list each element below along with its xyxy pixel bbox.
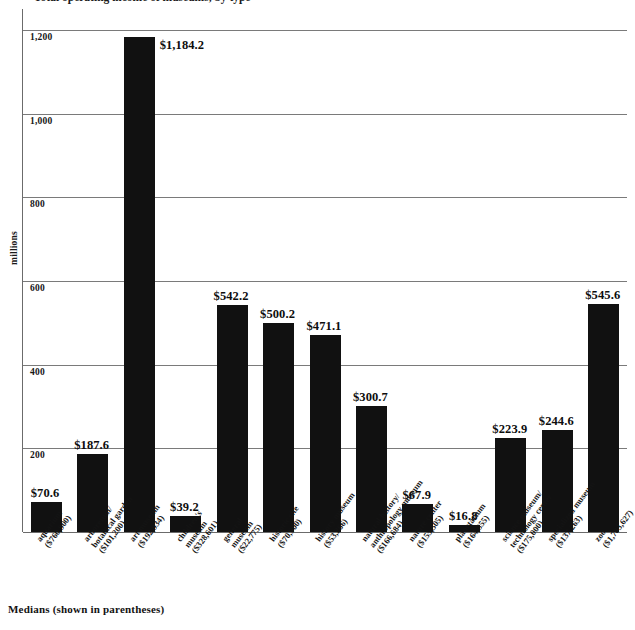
bar[interactable]: [217, 305, 248, 532]
bar-value-label: $300.7: [353, 390, 388, 405]
y-axis-tick-label: 1,200: [30, 32, 52, 42]
bar-value-label: $545.6: [585, 288, 620, 303]
gridline: [23, 281, 627, 282]
bar-value-label: $542.2: [214, 289, 249, 304]
bar[interactable]: [263, 323, 294, 532]
y-axis-label: millions: [9, 218, 19, 278]
bar-value-label: $39.2: [170, 500, 199, 515]
x-axis-category-labels: aquarium($760,900)arboretum/botanical ga…: [0, 533, 626, 605]
y-axis-tick-label: 400: [30, 367, 45, 377]
bar-value-label: $244.6: [539, 414, 574, 429]
bar[interactable]: [310, 335, 341, 532]
chart-title-clipped: Total operating income of museums, by ty…: [0, 0, 626, 6]
bar-value-label: $67.9: [402, 488, 431, 503]
plot-area: [22, 9, 626, 532]
bar-value-label: $16.8: [449, 509, 478, 524]
bar[interactable]: [124, 37, 155, 532]
chart-caption: Medians (shown in parentheses): [8, 603, 164, 615]
bar-value-label: $500.2: [260, 307, 295, 322]
bar-value-label: $187.6: [74, 438, 109, 453]
gridline: [23, 114, 627, 115]
gridline: [23, 197, 627, 198]
y-axis-tick-label: 200: [30, 450, 45, 460]
y-axis-tick-label: 600: [30, 283, 45, 293]
bar-value-label: $471.1: [307, 319, 342, 334]
chart-title-text: Total operating income of museums, by ty…: [34, 0, 250, 3]
bar-value-label: $70.6: [31, 486, 60, 501]
bar-value-label: $223.9: [492, 422, 527, 437]
gridline: [23, 30, 627, 31]
y-axis-tick-label: 1,000: [30, 116, 52, 126]
bar-value-label: $1,184.2: [160, 38, 205, 53]
y-axis-tick-label: 800: [30, 199, 45, 209]
